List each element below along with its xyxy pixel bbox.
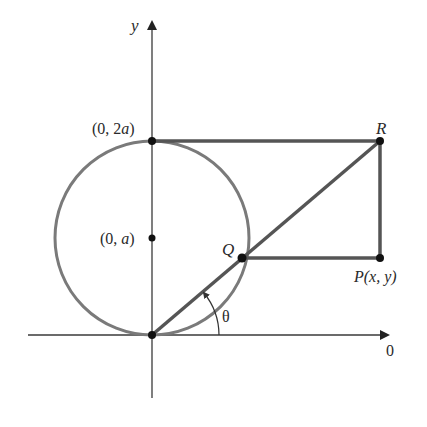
r-label: R: [375, 119, 387, 138]
point-r: [376, 137, 384, 145]
top-point-label: (0, 2a): [92, 120, 135, 138]
point-top: [148, 137, 156, 145]
x-axis-label: 0: [386, 342, 394, 359]
center-point-label: (0, a): [100, 230, 135, 248]
point-q: [238, 254, 247, 263]
point-p: [376, 254, 384, 262]
point-origin: [148, 331, 156, 339]
p-label: P(x, y): [353, 268, 397, 286]
theta-label: θ: [222, 308, 230, 325]
segment-origin-to-r: [152, 141, 380, 335]
witch-of-agnesi-diagram: y 0 (0, 2a) (0, a) Q R P(x, y) θ: [0, 0, 427, 427]
point-center: [149, 235, 156, 242]
q-label: Q: [222, 240, 234, 259]
y-axis-label: y: [129, 16, 139, 35]
